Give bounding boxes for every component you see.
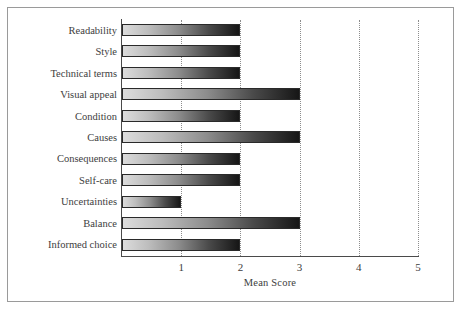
bar: [122, 196, 181, 208]
bar: [122, 45, 240, 57]
gridline-x-5: [418, 20, 419, 256]
bar-chart: ReadabilityStyleTechnical termsVisual ap…: [0, 0, 470, 313]
x-axis-title: Mean Score: [122, 277, 418, 288]
y-axis-label: Style: [20, 46, 117, 57]
bar: [122, 174, 240, 186]
bar: [122, 24, 240, 36]
y-axis-label: Visual appeal: [20, 89, 117, 100]
x-axis-line: [121, 256, 419, 257]
y-axis-label: Causes: [20, 132, 117, 143]
y-axis-label: Consequences: [20, 153, 117, 164]
y-axis-label: Balance: [20, 218, 117, 229]
bar: [122, 153, 240, 165]
y-axis-label: Self-care: [20, 175, 117, 186]
x-tick-label: 3: [285, 261, 315, 273]
bars-layer: [122, 20, 418, 256]
x-tick-label: 5: [403, 261, 433, 273]
y-axis-label: Condition: [20, 111, 117, 122]
bar: [122, 239, 240, 251]
y-axis-category-labels: ReadabilityStyleTechnical termsVisual ap…: [20, 20, 117, 256]
x-tick-label: 1: [166, 261, 196, 273]
y-axis-label: Readability: [20, 25, 117, 36]
y-axis-label: Informed choice: [20, 239, 117, 250]
bar: [122, 131, 300, 143]
x-tick-label: 2: [225, 261, 255, 273]
y-axis-label: Uncertainties: [20, 196, 117, 207]
y-axis-label: Technical terms: [20, 68, 117, 79]
x-tick-label: 4: [344, 261, 374, 273]
bar: [122, 217, 300, 229]
bar: [122, 110, 240, 122]
bar: [122, 67, 240, 79]
bar: [122, 88, 300, 100]
